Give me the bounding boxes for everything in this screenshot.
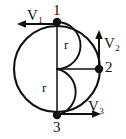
v2-arrowhead xyxy=(95,30,103,39)
v1-label: V1 xyxy=(27,8,43,25)
point-3-dot xyxy=(53,111,61,119)
v1-symbol: V xyxy=(27,7,38,23)
v3-subscript: 3 xyxy=(99,106,104,116)
v3-symbol: V xyxy=(88,98,99,114)
v1-subscript: 1 xyxy=(38,15,43,25)
v2-label: V2 xyxy=(104,36,120,53)
point-1-label: 1 xyxy=(53,3,61,18)
radius-label-lower: r xyxy=(42,81,46,94)
physics-diagram-figure: 1 2 3 r r V1 V2 V3 xyxy=(0,0,126,139)
upper-semicircle-arc xyxy=(57,22,81,69)
radius-label-upper: r xyxy=(64,38,68,51)
v1-arrowhead xyxy=(17,20,26,28)
v2-symbol: V xyxy=(104,35,115,51)
v2-subscript: 2 xyxy=(115,43,120,53)
point-2-label: 2 xyxy=(105,60,113,75)
v3-label: V3 xyxy=(88,99,104,116)
point-2-dot xyxy=(95,65,103,73)
point-1-dot xyxy=(53,18,61,26)
point-3-label: 3 xyxy=(53,120,61,135)
